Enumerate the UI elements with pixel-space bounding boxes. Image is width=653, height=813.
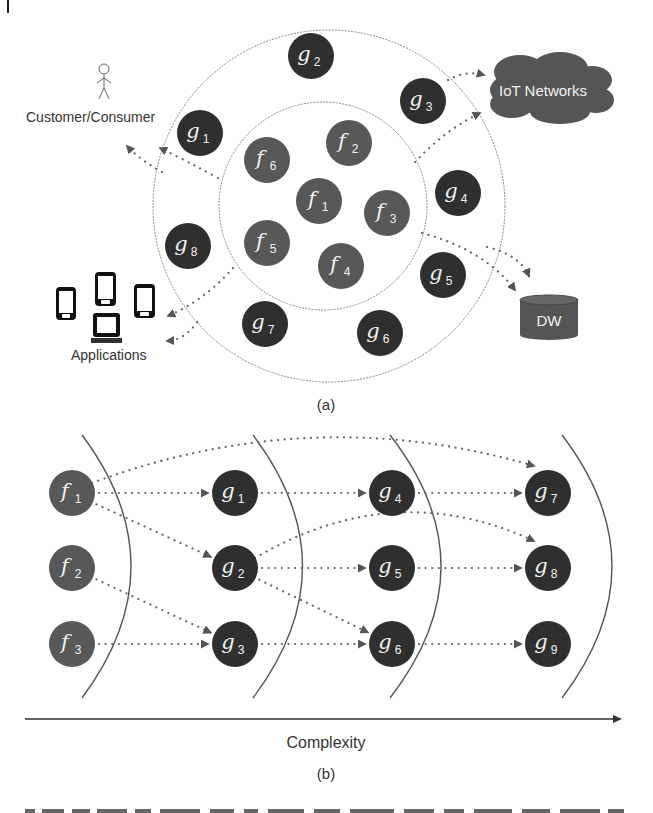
node-circle [296, 178, 342, 224]
node-subscript: 1 [322, 200, 329, 214]
a-node-g6: g6 [357, 310, 403, 356]
b-node-g2: g2 [212, 545, 258, 591]
node-circle [318, 243, 364, 289]
node-subscript: 5 [395, 567, 402, 581]
customer-label: Customer/Consumer [26, 109, 155, 125]
b-node-g5: g5 [369, 545, 415, 591]
a-node-f2: f2 [326, 120, 372, 166]
node-subscript: 4 [344, 265, 351, 279]
node-circle [244, 220, 290, 266]
dw-label: DW [537, 312, 563, 329]
node-circle [369, 621, 415, 667]
node-circle [369, 470, 415, 516]
b-node-g8: g8 [525, 545, 571, 591]
node-subscript: 1 [238, 492, 245, 506]
node-label: g [221, 630, 234, 654]
node-label: g [534, 630, 547, 654]
arrow-to-customer-outer [127, 146, 162, 172]
laptop-icon [91, 313, 122, 343]
edge-f1-to-g7 [92, 437, 534, 483]
a-node-g2: g2 [288, 33, 334, 79]
node-label: g [378, 554, 391, 578]
arrow-to-apps-inner [168, 268, 233, 316]
panel-b-caption: (b) [317, 765, 335, 782]
node-label: g [378, 479, 391, 503]
node-label: g [174, 232, 187, 256]
node-circle [49, 470, 95, 516]
panel-b-edges [92, 437, 534, 644]
node-subscript: 5 [270, 242, 277, 256]
node-circle [525, 621, 571, 667]
node-circle [364, 190, 410, 236]
node-circle [525, 470, 571, 516]
b-node-f1: f1 [49, 470, 95, 516]
cut-off-caption [20, 808, 630, 813]
a-node-g5: g5 [420, 252, 466, 298]
a-node-f5: f5 [244, 220, 290, 266]
node-circle [49, 621, 95, 667]
node-subscript: 5 [446, 274, 453, 288]
b-node-g3: g3 [212, 621, 258, 667]
phone-icon [95, 272, 116, 306]
node-label: g [444, 179, 457, 203]
node-circle [49, 545, 95, 591]
edge-f2-to-g3 [96, 579, 210, 632]
applications-label: Applications [71, 347, 147, 363]
arrow-to-apps-outer [167, 322, 197, 341]
iot-networks-label: IoT Networks [499, 82, 587, 99]
node-label: g [534, 479, 547, 503]
node-subscript: 9 [551, 643, 558, 657]
node-subscript: 6 [395, 643, 402, 657]
a-node-g7: g7 [242, 301, 288, 347]
node-circle [212, 470, 258, 516]
node-label: g [429, 261, 442, 285]
node-label: g [186, 119, 199, 143]
node-subscript: 8 [191, 245, 198, 259]
node-circle [212, 545, 258, 591]
a-node-f6: f6 [244, 137, 290, 183]
applications-icon [56, 272, 155, 343]
b-node-g6: g6 [369, 621, 415, 667]
node-circle [369, 545, 415, 591]
node-subscript: 8 [551, 567, 558, 581]
node-subscript: 4 [461, 192, 468, 206]
a-node-g1: g1 [177, 110, 223, 156]
node-label: g [251, 310, 264, 334]
node-subscript: 1 [75, 492, 82, 506]
edge-f1-to-g2 [97, 504, 211, 556]
a-node-f3: f3 [364, 190, 410, 236]
node-circle [165, 223, 211, 269]
margin-mark [7, 0, 9, 13]
node-subscript: 4 [395, 492, 402, 506]
b-node-f3: f3 [49, 621, 95, 667]
node-subscript: 2 [352, 142, 359, 156]
node-subscript: 2 [314, 55, 321, 69]
node-subscript: 2 [238, 567, 245, 581]
node-subscript: 7 [268, 323, 275, 337]
customer-icon [97, 64, 111, 99]
b-node-g1: g1 [212, 470, 258, 516]
b-node-g9: g9 [525, 621, 571, 667]
edge-g2-to-g6 [259, 580, 367, 632]
a-node-g8: g8 [165, 223, 211, 269]
node-subscript: 2 [75, 567, 82, 581]
node-label: g [221, 479, 234, 503]
node-subscript: 3 [390, 212, 397, 226]
node-subscript: 3 [426, 100, 433, 114]
arrow-to-iot-outer [448, 73, 484, 80]
node-subscript: 3 [238, 643, 245, 657]
complexity-axis-label: Complexity [286, 734, 365, 751]
arrow-to-dw-outer [487, 247, 529, 276]
b-node-g4: g4 [369, 470, 415, 516]
node-circle [288, 33, 334, 79]
figure-canvas: g2g3g1g4g8g5g7g6f6f2f1f3f5f4 Customer/Co… [0, 0, 653, 813]
node-circle [357, 310, 403, 356]
a-node-f1: f1 [296, 178, 342, 224]
node-label: g [366, 319, 379, 343]
node-circle [435, 170, 481, 216]
panel-a-nodes: g2g3g1g4g8g5g7g6f6f2f1f3f5f4 [165, 33, 481, 356]
axis-arrowhead-icon [613, 715, 622, 723]
panel-a: g2g3g1g4g8g5g7g6f6f2f1f3f5f4 Customer/Co… [26, 30, 614, 413]
complexity-arc-2 [253, 435, 303, 698]
node-label: g [297, 42, 310, 66]
